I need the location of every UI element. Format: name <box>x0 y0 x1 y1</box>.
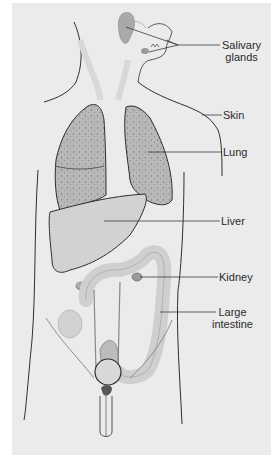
appendix-cecum <box>58 310 82 338</box>
anatomy-illustration <box>0 0 277 462</box>
torso-right-side <box>177 172 184 424</box>
sublingual-gland <box>151 44 159 47</box>
leader-salivary-2 <box>149 45 178 52</box>
bladder <box>95 359 121 385</box>
neck-shading <box>80 40 128 100</box>
left-lung <box>125 106 173 205</box>
right-lung <box>55 105 106 210</box>
lungs <box>55 105 172 210</box>
prostate <box>101 385 112 396</box>
label-salivary-line1: Salivary <box>222 39 261 51</box>
label-salivary-glands: Salivary glands <box>222 39 261 63</box>
label-lung: Lung <box>223 146 247 158</box>
submandibular-gland <box>141 48 149 54</box>
label-skin: Skin <box>223 109 244 121</box>
label-large-intestine-line2: intestine <box>212 318 253 330</box>
neck-left <box>44 22 81 102</box>
label-large-intestine: Large intestine <box>212 306 253 330</box>
label-kidney: Kidney <box>219 271 253 283</box>
torso-left-side <box>24 170 38 420</box>
parotid-gland <box>118 12 134 43</box>
label-salivary-line2: glands <box>222 51 261 63</box>
urogenital <box>95 341 121 437</box>
large-intestine <box>86 252 165 377</box>
label-liver: Liver <box>221 215 245 227</box>
label-large-intestine-line1: Large <box>212 306 253 318</box>
